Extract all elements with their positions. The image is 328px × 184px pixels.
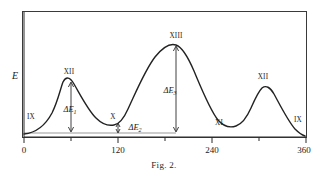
delta-e1-label: ΔE1 (62, 104, 76, 115)
x-tick-label-360: 360 (297, 145, 311, 155)
annotation-delta-e3: ΔE3 (162, 46, 178, 132)
annotation-delta-e2: ΔE2 (116, 122, 142, 133)
curve-label-end-right: IX (294, 116, 303, 124)
figure-caption: Fig. 2. (0, 160, 328, 170)
annotation-delta-e1: ΔE1 (62, 82, 76, 132)
curve-label-min-2: XI (215, 119, 223, 127)
delta-e3-label: ΔE3 (162, 85, 176, 96)
figure-2-energy-profile: 0 120 240 360 E IX XII X XIII XI XII IX … (0, 0, 328, 184)
x-tick-label-0: 0 (22, 145, 27, 155)
figure-caption-text: Fig. 2. (151, 160, 176, 170)
y-axis-label: E (11, 70, 18, 81)
x-tick-label-240: 240 (205, 145, 219, 155)
curve-label-min-1: X (110, 113, 116, 121)
delta-e2-label: ΔE2 (127, 122, 141, 133)
curve-label-peak-2: XIII (169, 32, 183, 40)
curve-label-end-left: IX (27, 113, 36, 121)
curve-label-peak-3: XII (258, 73, 269, 81)
curve-label-peak-1: XII (64, 68, 75, 76)
x-tick-label-120: 120 (111, 145, 125, 155)
